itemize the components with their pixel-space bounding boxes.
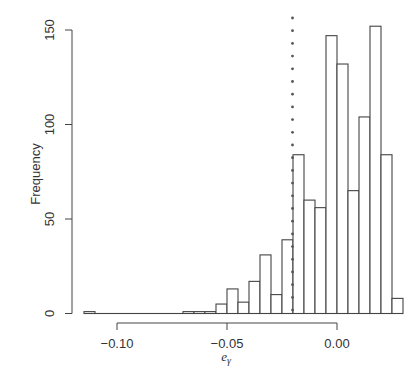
histogram-bars	[84, 26, 403, 313]
histogram-chart: 050100150 −0.10−0.050.00 Frequency eγ	[0, 0, 420, 391]
y-tick-label: 50	[42, 212, 57, 226]
histogram-bar	[326, 36, 337, 314]
histogram-bar	[249, 281, 260, 313]
histogram-bar	[183, 312, 194, 314]
x-tick-label: 0.00	[324, 336, 349, 351]
histogram-bar	[315, 208, 326, 314]
histogram-bar	[359, 117, 370, 314]
histogram-bar	[194, 312, 205, 314]
histogram-bar	[227, 289, 238, 314]
histogram-bar	[381, 155, 392, 314]
histogram-bar	[304, 200, 315, 313]
histogram-bar	[216, 304, 227, 313]
histogram-bar	[392, 298, 403, 313]
histogram-bar	[282, 240, 293, 314]
histogram-bar	[205, 312, 216, 314]
x-axis-label: eγ	[221, 349, 232, 366]
histogram-bar	[260, 255, 271, 314]
histogram-bar	[348, 191, 359, 314]
histogram-bar	[293, 155, 304, 314]
y-axis-label: Frequency	[28, 143, 43, 205]
histogram-bar	[370, 26, 381, 313]
histogram-bar	[238, 302, 249, 313]
y-tick-label: 150	[42, 19, 57, 41]
y-axis: 050100150	[42, 19, 72, 317]
y-tick-label: 0	[42, 310, 57, 317]
x-tick-label: −0.05	[211, 336, 244, 351]
y-tick-label: 100	[42, 114, 57, 136]
histogram-bar	[337, 64, 348, 313]
x-tick-label: −0.10	[101, 336, 134, 351]
histogram-bar	[271, 295, 282, 314]
histogram-bar	[84, 312, 95, 314]
x-axis: −0.10−0.050.00	[101, 323, 350, 351]
